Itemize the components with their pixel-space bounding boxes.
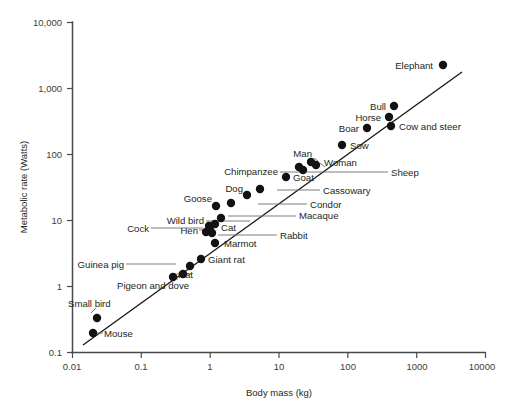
point-cat[interactable] <box>211 220 219 228</box>
label-horse: Horse <box>355 112 381 123</box>
point-goose[interactable] <box>212 202 220 210</box>
label-goat: Goat <box>293 172 314 183</box>
label-dog: Dog <box>225 183 243 194</box>
point-macaque[interactable] <box>217 214 225 222</box>
label-rabbit: Rabbit <box>280 230 308 241</box>
point-goat[interactable] <box>282 173 290 181</box>
y-tick-label-10000: 10,000 <box>33 17 62 28</box>
y-tick-label-100: 100 <box>46 149 62 160</box>
x-tick-label-0.01: 0.01 <box>63 361 82 372</box>
label-hen: Hen <box>180 225 198 236</box>
x-tick-label-1: 1 <box>207 361 212 372</box>
point-rabbit[interactable] <box>208 229 216 237</box>
label-sow: Sow <box>350 140 369 151</box>
point-small-bird[interactable] <box>93 314 101 322</box>
label-man: Man <box>293 148 312 159</box>
label-bull: Bull <box>370 101 386 112</box>
chart-canvas: 10,000 1,000 100 10 1 0.1 0.01 0.1 1 10 … <box>0 0 507 412</box>
point-condor[interactable] <box>227 199 235 207</box>
point-bull[interactable] <box>390 102 398 110</box>
label-boar: Boar <box>339 123 360 134</box>
trend-line <box>83 72 462 345</box>
x-tick-label-100: 100 <box>340 361 356 372</box>
label-sheep: Sheep <box>391 167 419 178</box>
x-tick-label-1000: 1000 <box>406 361 427 372</box>
label-cassowary: Cassowary <box>323 185 371 196</box>
point-mouse[interactable] <box>89 329 97 337</box>
label-guinea-pig: Guinea pig <box>78 259 124 270</box>
label-cow-and-steer: Cow and steer <box>399 121 462 132</box>
y-tick-label-0.1: 0.1 <box>49 347 62 358</box>
y-tick-label-1000: 1,000 <box>38 83 62 94</box>
metabolic-scaling-chart: 10,000 1,000 100 10 1 0.1 0.01 0.1 1 10 … <box>0 0 507 412</box>
point-boar[interactable] <box>363 124 371 132</box>
point-cassowary[interactable] <box>256 185 264 193</box>
point-labels: Mouse Small bird Pigeon and dove Rat Gui… <box>68 60 462 339</box>
label-chimpanzee: Chimpanzee <box>224 166 278 177</box>
label-woman: Woman <box>324 157 357 168</box>
label-wild-bird: Wild bird <box>167 215 204 226</box>
data-points <box>89 61 447 337</box>
label-small-bird: Small bird <box>68 298 111 309</box>
label-elephant: Elephant <box>395 60 433 71</box>
x-axis-tick-labels: 0.01 0.1 1 10 100 1000 10000 <box>63 361 495 372</box>
x-axis-title: Body mass (kg) <box>246 387 312 398</box>
x-tick-label-0.1: 0.1 <box>134 361 147 372</box>
point-cow-and-steer[interactable] <box>387 122 395 130</box>
y-axis-tick-labels: 10,000 1,000 100 10 1 0.1 <box>33 17 62 358</box>
label-marmot: Marmot <box>224 238 257 249</box>
label-goose: Goose <box>184 193 212 204</box>
point-giant-rat[interactable] <box>197 255 205 263</box>
label-macaque: Macaque <box>299 210 338 221</box>
x-tick-label-10: 10 <box>274 361 285 372</box>
label-condor: Condor <box>310 199 342 210</box>
point-horse[interactable] <box>385 113 393 121</box>
x-tick-label-10000: 10000 <box>469 361 495 372</box>
label-cock: Cock <box>127 223 149 234</box>
label-giant-rat: Giant rat <box>208 254 245 265</box>
y-axis-title: Metabolic rate (Watts) <box>18 141 29 234</box>
point-woman[interactable] <box>312 161 320 169</box>
y-tick-label-10: 10 <box>51 215 62 226</box>
point-elephant[interactable] <box>439 61 447 69</box>
label-pigeon-dove: Pigeon and dove <box>117 280 189 291</box>
label-mouse: Mouse <box>104 328 133 339</box>
axes <box>72 22 485 353</box>
label-cat: Cat <box>221 222 236 233</box>
point-dog[interactable] <box>243 191 251 199</box>
y-tick-label-1: 1 <box>57 281 62 292</box>
label-rat: Rat <box>178 269 193 280</box>
point-marmot[interactable] <box>211 239 219 247</box>
point-sow[interactable] <box>338 141 346 149</box>
